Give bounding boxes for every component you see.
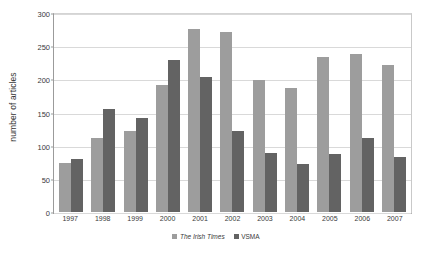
x-tick-label: 2003 (249, 215, 281, 222)
bar-group (216, 14, 248, 212)
x-axis-labels: 1997199819992000200120022003200420052006… (54, 215, 411, 222)
legend-swatch-icon (172, 234, 177, 239)
x-tick-label: 2001 (184, 215, 216, 222)
x-tick-label: 2002 (216, 215, 248, 222)
bar (350, 54, 362, 212)
x-tick-label: 1999 (119, 215, 151, 222)
y-axis-title-label: number of articles (8, 72, 18, 141)
bar (297, 164, 309, 212)
legend-swatch-icon (234, 234, 239, 239)
bar-group (378, 14, 410, 212)
bars-layer (55, 14, 410, 212)
x-tick-label: 2007 (379, 215, 411, 222)
bar-chart: number of articles 050100150200250300 19… (0, 0, 432, 255)
y-tick-mark (51, 14, 54, 15)
bar-group (152, 14, 184, 212)
bar (91, 138, 103, 212)
bar (220, 32, 232, 212)
bar-group (55, 14, 87, 212)
y-tick-label: 200 (37, 76, 50, 85)
bar-group (313, 14, 345, 212)
x-tick-label: 2005 (314, 215, 346, 222)
x-tick-label: 2004 (281, 215, 313, 222)
bar (71, 159, 83, 212)
bar-group (345, 14, 377, 212)
legend-label: VSMA (241, 233, 259, 240)
bar (232, 131, 244, 212)
y-tick-mark (51, 213, 54, 214)
bar (253, 80, 265, 212)
bar-group (281, 14, 313, 212)
y-tick-label: 100 (37, 142, 50, 151)
bar (168, 60, 180, 212)
bar (317, 57, 329, 212)
x-tick-label: 1997 (54, 215, 86, 222)
x-tick-label: 2006 (346, 215, 378, 222)
bar (265, 153, 277, 212)
bar (103, 109, 115, 212)
bar (156, 85, 168, 212)
y-tick-mark (51, 146, 54, 147)
bar (188, 29, 200, 212)
y-tick-label: 300 (37, 10, 50, 19)
y-tick-mark (51, 113, 54, 114)
x-tick-label: 2000 (151, 215, 183, 222)
bar (200, 77, 212, 212)
bar (285, 88, 297, 212)
bar (394, 157, 406, 212)
y-axis-title: number of articles (2, 0, 24, 214)
bar (124, 131, 136, 212)
bar (329, 154, 341, 212)
x-tick-label: 1998 (86, 215, 118, 222)
y-tick-label: 150 (37, 109, 50, 118)
y-tick-label: 50 (42, 175, 50, 184)
bar-group (249, 14, 281, 212)
bar (362, 138, 374, 212)
y-tick-label: 250 (37, 43, 50, 52)
y-tick-mark (51, 47, 54, 48)
gridline (54, 213, 411, 214)
legend-item[interactable]: VSMA (234, 233, 260, 240)
chart-legend: The Irish TimesVSMA (0, 233, 432, 240)
bar (382, 65, 394, 212)
legend-item[interactable]: The Irish Times (172, 233, 224, 240)
bar (136, 118, 148, 212)
y-tick-mark (51, 179, 54, 180)
bar-group (184, 14, 216, 212)
plot-area: 050100150200250300 (53, 13, 412, 214)
bar (59, 163, 71, 213)
bar-group (87, 14, 119, 212)
legend-label: The Irish Times (180, 233, 225, 240)
y-tick-label: 0 (46, 209, 50, 218)
bar-group (120, 14, 152, 212)
y-tick-mark (51, 80, 54, 81)
